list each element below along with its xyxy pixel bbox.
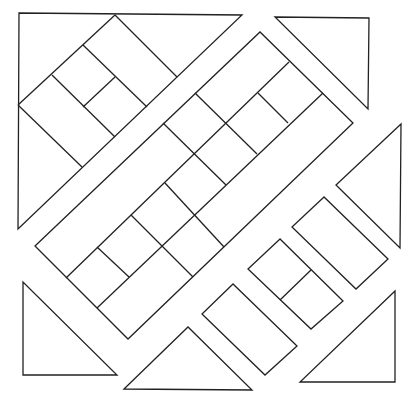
- quilt-block-drawing: [0, 0, 416, 401]
- diagram-canvas: Quilt block line drawing: [0, 0, 416, 401]
